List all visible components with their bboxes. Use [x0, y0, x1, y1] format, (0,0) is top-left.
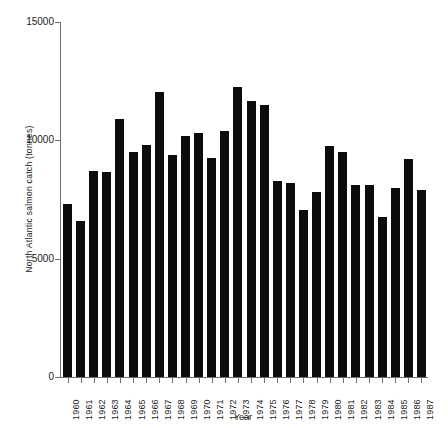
x-axis-tick-mark: [317, 378, 318, 383]
x-axis-tick-mark: [382, 378, 383, 383]
x-axis-tick-mark: [199, 378, 200, 383]
x-axis-tick-mark: [133, 378, 134, 383]
bar: [89, 171, 98, 377]
bar: [194, 133, 203, 377]
bar: [63, 204, 72, 377]
x-axis-tick-mark: [94, 378, 95, 383]
bar: [220, 131, 229, 377]
salmon-catch-bar-chart: North Atlantic salmon catch (tonnes) 050…: [0, 0, 448, 429]
bar: [142, 145, 151, 377]
bar: [286, 183, 295, 377]
x-axis-tick-mark: [186, 378, 187, 383]
bar: [417, 190, 426, 377]
bar: [299, 210, 308, 377]
x-axis-tick-mark: [290, 378, 291, 383]
x-axis-tick-mark: [421, 378, 422, 383]
x-axis-tick-mark: [330, 378, 331, 383]
x-axis-tick-mark: [303, 378, 304, 383]
bar: [365, 185, 374, 377]
x-axis-tick-mark: [68, 378, 69, 383]
bar: [155, 92, 164, 377]
x-axis-tick-mark: [343, 378, 344, 383]
bar: [273, 181, 282, 377]
bar: [351, 185, 360, 377]
bar: [378, 217, 387, 377]
x-axis-tick-mark: [159, 378, 160, 383]
x-axis-tick-mark: [120, 378, 121, 383]
bar: [260, 105, 269, 377]
y-axis-tick-label: 5000: [8, 253, 54, 264]
x-axis-tick-mark: [277, 378, 278, 383]
x-axis-tick-mark: [172, 378, 173, 383]
bar: [168, 155, 177, 377]
y-axis-tick-label: 0: [8, 371, 54, 382]
y-axis-tick-label: 15000: [8, 16, 54, 27]
x-axis-tick-mark: [251, 378, 252, 383]
x-axis-tick-mark: [408, 378, 409, 383]
bar: [181, 136, 190, 377]
x-axis-tick-mark: [146, 378, 147, 383]
bar: [115, 119, 124, 377]
y-axis-tick-mark: [55, 140, 61, 141]
bar: [325, 146, 334, 377]
bar: [76, 221, 85, 377]
bar: [129, 152, 138, 377]
x-axis-title: Year: [0, 412, 448, 422]
x-axis-tick-mark: [395, 378, 396, 383]
x-axis-tick-mark: [369, 378, 370, 383]
bar: [338, 152, 347, 377]
y-axis-tick-label: 10000: [8, 134, 54, 145]
bar: [312, 192, 321, 377]
bar: [233, 87, 242, 377]
bar: [207, 158, 216, 377]
y-axis-tick-mark: [55, 259, 61, 260]
x-axis-tick-mark: [81, 378, 82, 383]
y-axis-tick-mark: [55, 377, 61, 378]
bar: [391, 188, 400, 377]
x-axis-tick-mark: [264, 378, 265, 383]
y-axis-tick-mark: [55, 22, 61, 23]
x-axis-tick-mark: [356, 378, 357, 383]
bar: [247, 101, 256, 377]
bar: [404, 159, 413, 377]
x-axis-tick-mark: [212, 378, 213, 383]
bar: [102, 172, 111, 377]
plot-area: [61, 22, 428, 377]
x-axis-tick-mark: [238, 378, 239, 383]
x-axis-tick-mark: [225, 378, 226, 383]
x-axis-tick-mark: [107, 378, 108, 383]
y-axis-tick-labels: 050001000015000: [8, 0, 54, 429]
